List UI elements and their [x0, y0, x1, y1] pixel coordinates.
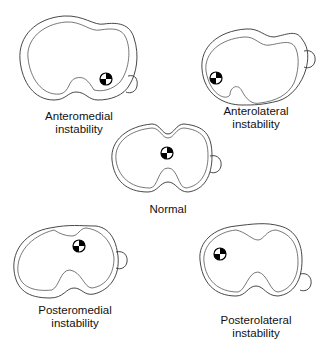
tibia-outline [28, 22, 129, 94]
panel-anterolateral: Anterolateral instability [196, 25, 316, 125]
rotation-center-icon [161, 147, 173, 159]
caption-posteromedial: Posteromedial instability [15, 304, 135, 330]
panel-anteromedial: Anteromedial instability [14, 10, 144, 110]
rotation-center-icon [100, 73, 112, 85]
plateau-diagram-anterolateral [196, 25, 316, 105]
fibula-head [126, 76, 137, 93]
caption-normal: Normal [108, 203, 228, 216]
tibia-outline [18, 228, 114, 290]
caption-line: instability [196, 327, 316, 339]
fibula-head [304, 51, 315, 68]
femur-outline [20, 16, 137, 100]
caption-line: Anterolateral [196, 105, 316, 118]
rotation-center-icon [210, 72, 222, 84]
panel-posterolateral: Posterolateral instability [196, 220, 321, 335]
fibula-head [300, 274, 311, 291]
plateau-diagram-normal [108, 120, 228, 200]
caption-line: Posteromedial [15, 304, 135, 317]
rotation-center-icon [214, 248, 226, 260]
plateau-diagram-posteromedial [10, 220, 135, 300]
caption-line: Normal [108, 203, 228, 216]
femur-outline [14, 226, 118, 299]
plateau-diagram-posterolateral [196, 220, 321, 300]
panel-normal: Normal [108, 120, 228, 230]
caption-line: instability [15, 317, 135, 330]
tibia-outline [116, 128, 208, 188]
caption-posterolateral: Posterolateral instability [196, 314, 316, 339]
plateau-diagram-anteromedial [14, 10, 144, 110]
rotation-center-icon [73, 240, 85, 252]
tibia-outline [206, 37, 298, 103]
caption-line: Posterolateral [196, 314, 316, 327]
panel-posteromedial: Posteromedial instability [10, 220, 135, 330]
tibia-outline [204, 230, 298, 292]
